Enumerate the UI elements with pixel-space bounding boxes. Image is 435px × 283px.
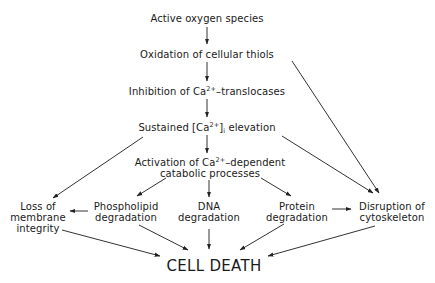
edge-n10-n11 — [268, 226, 375, 256]
node-oxidation-of-thiols: Oxidation of cellular thiols — [140, 49, 274, 60]
node-line-2: degradation — [178, 212, 240, 223]
node-label-pre: Sustained [Ca — [138, 122, 209, 133]
node-disruption-of-cytoskeleton: Disruption of cytoskeleton — [359, 201, 425, 223]
node-line-3: integrity — [10, 223, 66, 234]
node-line-1: Protein — [266, 201, 328, 212]
node-label: CELL DEATH — [167, 257, 262, 275]
node-label-sup: 2+ — [209, 121, 219, 129]
edge-n4-n6 — [53, 137, 143, 198]
node-activation-catabolic-processes: Activation of Ca2+–dependent catabolic p… — [135, 157, 286, 179]
edge-n4-n10 — [282, 136, 373, 193]
edge-n5-n9 — [261, 178, 291, 196]
node-label-pre: Activation of Ca — [135, 157, 216, 168]
node-label-sup: 2+ — [206, 85, 216, 93]
edge-n2-n10 — [292, 61, 379, 193]
node-line-1: DNA — [178, 201, 240, 212]
edge-n6-n11 — [62, 230, 160, 256]
node-line-2: catabolic processes — [135, 168, 286, 179]
node-active-oxygen-species: Active oxygen species — [150, 13, 263, 24]
node-label-post: elevation — [225, 122, 275, 133]
node-inhibition-ca-translocases: Inhibition of Ca2+–translocases — [129, 86, 285, 97]
node-line-1: Disruption of — [359, 201, 425, 212]
node-line-2: degradation — [94, 212, 159, 223]
node-line-2: membrane — [10, 212, 66, 223]
node-sustained-ca-elevation: Sustained [Ca2+]i elevation — [138, 122, 275, 133]
node-label-pre: Inhibition of Ca — [129, 86, 206, 97]
node-phospholipid-degradation: Phospholipid degradation — [94, 201, 159, 223]
edge-n9-n11 — [240, 224, 284, 250]
node-loss-of-membrane-integrity: Loss of membrane integrity — [10, 201, 66, 234]
node-line-1: Phospholipid — [94, 201, 159, 212]
node-line-1: Loss of — [10, 201, 66, 212]
node-label: Active oxygen species — [150, 13, 263, 24]
node-line-2: degradation — [266, 212, 328, 223]
edges-layer — [0, 0, 435, 283]
node-protein-degradation: Protein degradation — [266, 201, 328, 223]
node-line-1: Activation of Ca2+–dependent — [135, 157, 286, 168]
node-label-post: –translocases — [216, 86, 285, 97]
node-cell-death: CELL DEATH — [167, 258, 262, 274]
edge-n7-n11 — [139, 225, 188, 250]
edge-n5-n7 — [137, 178, 166, 196]
node-label: Oxidation of cellular thiols — [140, 49, 274, 60]
node-label-post: –dependent — [225, 157, 285, 168]
node-dna-degradation: DNA degradation — [178, 201, 240, 223]
node-line-2: cytoskeleton — [359, 212, 425, 223]
node-label-sup: 2+ — [215, 156, 225, 164]
